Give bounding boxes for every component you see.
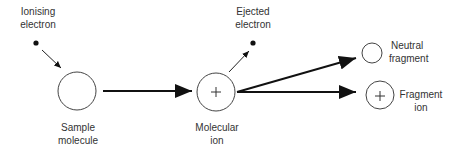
ionising-electron-label: Ionising electron xyxy=(12,5,64,31)
label-line: Neutral xyxy=(389,39,443,52)
label-line: electron xyxy=(228,18,278,31)
label-line: Molecular xyxy=(189,121,245,134)
label-line: fragment xyxy=(389,52,443,65)
label-line: Sample xyxy=(52,121,104,134)
ionisation-diagram: Ionising electron Sample molecule Ejecte… xyxy=(0,0,458,151)
molecular-ion-label: Molecular ion xyxy=(189,121,245,147)
neutral-fragment-circle xyxy=(362,43,382,63)
label-line: molecule xyxy=(52,134,104,147)
ionising-electron-dot xyxy=(33,40,38,45)
label-line: ion xyxy=(189,134,245,147)
label-line: ion xyxy=(396,101,446,114)
sample-molecule-label: Sample molecule xyxy=(52,121,104,147)
sample-molecule-circle xyxy=(58,72,96,110)
neutral-fragment-arrow xyxy=(237,58,356,92)
ejected-electron-label: Ejected electron xyxy=(228,5,278,31)
label-line: Ejected xyxy=(228,5,278,18)
ejected-electron-arrow xyxy=(229,51,249,72)
label-line: Fragment xyxy=(396,88,446,101)
fragment-ion-label: Fragment ion xyxy=(396,88,446,114)
ejected-electron-dot xyxy=(250,40,255,45)
neutral-fragment-label: Neutral fragment xyxy=(389,39,443,65)
label-line: electron xyxy=(12,18,64,31)
label-line: Ionising xyxy=(12,5,64,18)
ionising-electron-arrow xyxy=(42,50,61,68)
